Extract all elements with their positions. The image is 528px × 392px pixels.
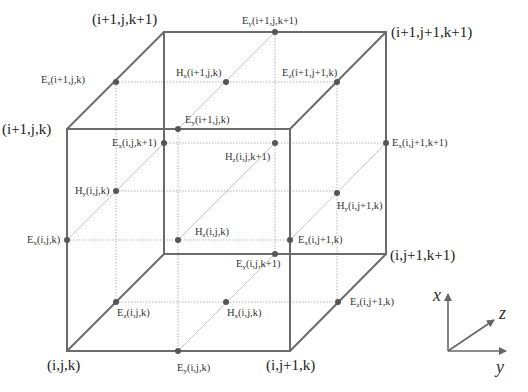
axis-label-y: y — [496, 358, 504, 376]
node-label: Hy(i,j+1,k) — [337, 200, 383, 212]
yee-cell-diagram: (i,j,k) (i,j+1,k) (i+1,j,k) (i+1,j,k+1) … — [0, 0, 528, 392]
corner-label-i1-j-k1: (i+1,j,k+1) — [92, 11, 157, 27]
node-label: Ey(i+1,j,k+1) — [242, 15, 298, 27]
axis-label-x: x — [433, 286, 441, 304]
axis-label-z: z — [499, 304, 506, 322]
node-label: Ez(i,j,k) — [117, 307, 150, 319]
node-label: Ex(i,j,k+1) — [112, 137, 156, 149]
node-label: Ez(i+1,j,k) — [41, 74, 85, 86]
axes-indicator — [448, 294, 506, 351]
node-label: Ex(i,j+1,k+1) — [392, 137, 448, 149]
node-label: Ez(i,j+1,k) — [350, 296, 394, 308]
node-label: Hz(i,j,k+1) — [225, 151, 270, 163]
node-label: Ex(i,j,k) — [27, 234, 60, 246]
corner-label-i-j-k: (i,j,k) — [47, 357, 80, 373]
corner-label-i1-j-k: (i+1,j,k) — [2, 121, 51, 137]
z-axis-arrow-icon — [448, 320, 494, 351]
node-label: Ey(i,j,k+1) — [236, 258, 280, 270]
node-label: Ex(i,j+1,k) — [298, 234, 342, 246]
node-label: Hx(i,j,k) — [227, 307, 261, 319]
corner-label-i1-j1-k1: (i+1,j+1,k+1) — [391, 24, 472, 40]
node-label: Hz(i,j,k) — [195, 226, 229, 238]
corner-label-i-j1-k: (i,j+1,k) — [266, 357, 315, 373]
corner-label-i-j1-k1: (i,j+1,k+1) — [390, 247, 455, 263]
node-label: Hx(i+1,j,k) — [176, 67, 222, 79]
node-label: Ez(i+1,j+1,k) — [282, 67, 337, 79]
node-label: Ey(i,j,k) — [177, 362, 210, 374]
node-label: Ey(i+1,j,k) — [185, 114, 229, 126]
node-label: Hy(i,j,k) — [75, 185, 109, 197]
